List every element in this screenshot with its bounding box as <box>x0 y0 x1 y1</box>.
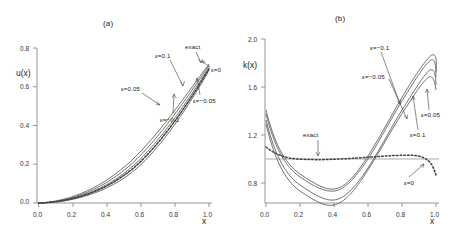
figure-root: (a) u(x) x 0.8 0.6 0.4 0.2 0.0 0.0 0.2 0… <box>0 0 464 235</box>
panel-b-curves <box>266 55 436 206</box>
panel-a: (a) u(x) x 0.8 0.6 0.4 0.2 0.0 0.0 0.2 0… <box>0 0 232 235</box>
panel-b-leader-lines <box>316 52 429 177</box>
panel-a-plot-svg <box>0 0 232 235</box>
curve-a-eps-neg0.05 <box>39 69 210 203</box>
curve-a-eps-0 <box>39 67 210 203</box>
panel-a-leader-lines <box>142 52 210 113</box>
curve-a-exact-dotted <box>39 69 210 203</box>
curve-a-eps-0.05 <box>39 66 210 203</box>
curve-b-eps-neg0.05 <box>266 60 436 191</box>
curve-b-exact-dotted <box>266 147 436 175</box>
panel-b: (b) k(x) x 2.0 1.6 1.2 0.8 0.0 0.2 0.4 0… <box>232 0 464 235</box>
panel-a-axes <box>33 48 212 207</box>
panel-b-plot-svg <box>232 0 464 235</box>
curve-a-eps-neg0.1 <box>39 70 210 203</box>
